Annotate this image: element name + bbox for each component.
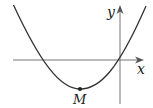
parabola-diagram: x y M bbox=[0, 0, 153, 108]
x-axis bbox=[13, 57, 144, 64]
y-axis-label: y bbox=[106, 4, 116, 20]
x-axis-label: x bbox=[137, 61, 145, 77]
vertex-label-m: M bbox=[72, 92, 87, 107]
vertex-point-m bbox=[78, 87, 82, 91]
parabola-curve bbox=[14, 5, 147, 89]
